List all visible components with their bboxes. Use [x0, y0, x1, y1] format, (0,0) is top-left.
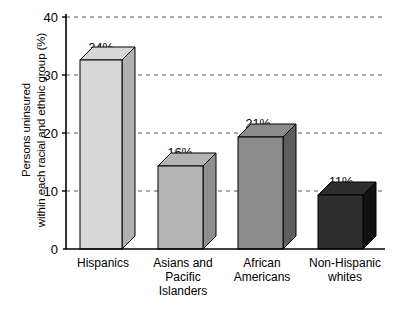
- plot-area: [0, 0, 407, 317]
- bar-african-americans: [238, 124, 296, 249]
- bar-asians-pacific-islanders: [158, 153, 216, 249]
- bar-hispanics: [80, 47, 135, 249]
- bar-non-hispanic-whites: [318, 182, 376, 249]
- bar-chart: Persons uninsured within each racial and…: [0, 0, 407, 317]
